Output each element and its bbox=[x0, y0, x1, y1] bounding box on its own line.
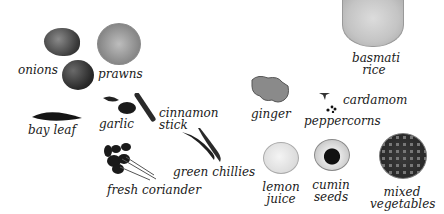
ginger-image bbox=[248, 72, 292, 106]
peppercorns-image bbox=[325, 103, 339, 113]
cardamom-label: cardamom bbox=[343, 94, 407, 106]
lemon-juice-bowl-image bbox=[263, 142, 299, 174]
fresh-coriander-label: fresh coriander bbox=[107, 184, 201, 196]
cinnamon-stick-image bbox=[133, 93, 157, 123]
lemon-juice-label: lemon juice bbox=[262, 181, 300, 205]
peppercorns-label: peppercorns bbox=[304, 115, 381, 127]
cumin-seeds-bowl-image bbox=[314, 139, 350, 171]
basmati-rice-label-line2: rice bbox=[352, 64, 396, 76]
onion-image-bottom bbox=[62, 60, 94, 90]
mixed-vegetables-label: mixed vegetables bbox=[370, 186, 434, 210]
onion-image-top bbox=[44, 28, 80, 56]
cumin-label-line2: seeds bbox=[312, 191, 350, 203]
ginger-label: ginger bbox=[251, 108, 291, 120]
mixed-label-line2: vegetables bbox=[370, 198, 434, 210]
cumin-seeds-label: cumin seeds bbox=[312, 179, 350, 203]
garlic-label: garlic bbox=[99, 118, 134, 130]
prawns-label: prawns bbox=[98, 68, 143, 80]
onions-label: onions bbox=[18, 64, 58, 76]
fresh-coriander-image bbox=[102, 143, 158, 181]
lemon-label-line2: juice bbox=[262, 193, 300, 205]
green-chillies-image bbox=[180, 126, 226, 166]
green-chillies-label: green chillies bbox=[173, 166, 255, 178]
mixed-vegetables-bowl-image bbox=[379, 133, 427, 179]
basmati-rice-bowl-image bbox=[342, 0, 404, 47]
prawns-bowl-image bbox=[97, 23, 141, 65]
bay-leaf-label: bay leaf bbox=[28, 124, 76, 136]
cardamom-image bbox=[318, 90, 332, 102]
basmati-rice-label: basmati rice bbox=[352, 52, 396, 76]
